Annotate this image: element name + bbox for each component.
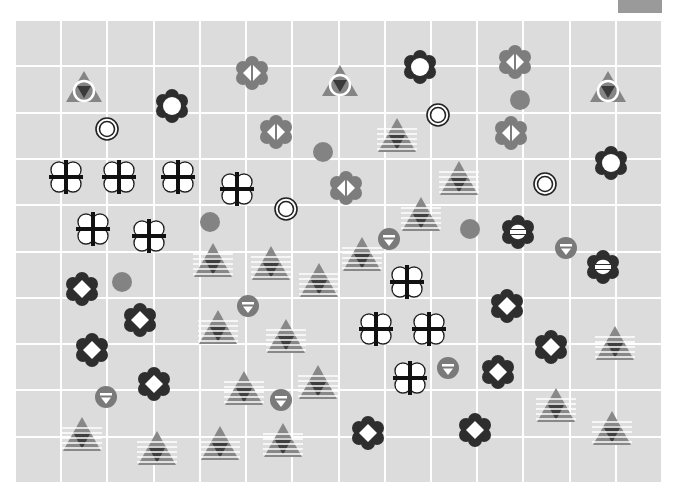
clover-cross-icon[interactable] [356, 309, 396, 349]
striped-triangle-icon[interactable] [592, 408, 632, 448]
gray-flower-split-icon[interactable] [495, 42, 535, 82]
flower-dot-icon[interactable] [152, 86, 192, 126]
triangle-ring-icon[interactable] [64, 68, 104, 108]
flower-diamond-icon[interactable] [134, 364, 174, 404]
small-badge-icon[interactable] [261, 380, 301, 420]
striped-triangle-icon[interactable] [263, 420, 303, 460]
flower-diamond-icon[interactable] [531, 327, 571, 367]
striped-triangle-icon[interactable] [298, 362, 338, 402]
clover-cross-icon[interactable] [46, 157, 86, 197]
gray-dot-icon[interactable] [500, 80, 540, 120]
clover-cross-icon[interactable] [158, 157, 198, 197]
target-icon[interactable] [266, 189, 306, 229]
flower-bar-icon[interactable] [498, 212, 538, 252]
clover-cross-icon[interactable] [387, 262, 427, 302]
clover-cross-icon[interactable] [409, 309, 449, 349]
gray-flower-split-icon[interactable] [256, 112, 296, 152]
striped-triangle-icon[interactable] [377, 115, 417, 155]
clover-cross-icon[interactable] [217, 169, 257, 209]
flower-diamond-icon[interactable] [487, 286, 527, 326]
gray-dot-icon[interactable] [450, 209, 490, 249]
small-badge-icon[interactable] [428, 348, 468, 388]
small-badge-icon[interactable] [228, 286, 268, 326]
clover-cross-icon[interactable] [129, 216, 169, 256]
flower-diamond-icon[interactable] [120, 300, 160, 340]
corner-indicator [618, 0, 662, 13]
game-board[interactable] [15, 20, 662, 483]
striped-triangle-icon[interactable] [266, 316, 306, 356]
flower-diamond-icon[interactable] [455, 410, 495, 450]
striped-triangle-icon[interactable] [200, 423, 240, 463]
flower-diamond-icon[interactable] [72, 330, 112, 370]
small-badge-icon[interactable] [546, 228, 586, 268]
clover-cross-icon[interactable] [99, 157, 139, 197]
triangle-ring-icon[interactable] [588, 68, 628, 108]
triangle-ring-icon[interactable] [320, 62, 360, 102]
small-badge-icon[interactable] [86, 377, 126, 417]
gray-dot-icon[interactable] [102, 262, 142, 302]
striped-triangle-icon[interactable] [193, 240, 233, 280]
target-icon[interactable] [525, 164, 565, 204]
gray-dot-icon[interactable] [303, 132, 343, 172]
flower-dot-icon[interactable] [591, 143, 631, 183]
flower-bar-icon[interactable] [583, 247, 623, 287]
striped-triangle-icon[interactable] [299, 260, 339, 300]
gray-flower-split-icon[interactable] [326, 168, 366, 208]
striped-triangle-icon[interactable] [536, 385, 576, 425]
small-badge-icon[interactable] [369, 219, 409, 259]
striped-triangle-icon[interactable] [251, 243, 291, 283]
flower-diamond-icon[interactable] [478, 352, 518, 392]
flower-diamond-icon[interactable] [62, 269, 102, 309]
flower-diamond-icon[interactable] [348, 413, 388, 453]
flower-dot-icon[interactable] [400, 47, 440, 87]
striped-triangle-icon[interactable] [595, 323, 635, 363]
target-icon[interactable] [87, 109, 127, 149]
striped-triangle-icon[interactable] [137, 428, 177, 468]
striped-triangle-icon[interactable] [439, 158, 479, 198]
striped-triangle-icon[interactable] [62, 414, 102, 454]
target-icon[interactable] [418, 95, 458, 135]
striped-triangle-icon[interactable] [224, 368, 264, 408]
clover-cross-icon[interactable] [390, 358, 430, 398]
gray-flower-split-icon[interactable] [232, 53, 272, 93]
clover-cross-icon[interactable] [73, 209, 113, 249]
